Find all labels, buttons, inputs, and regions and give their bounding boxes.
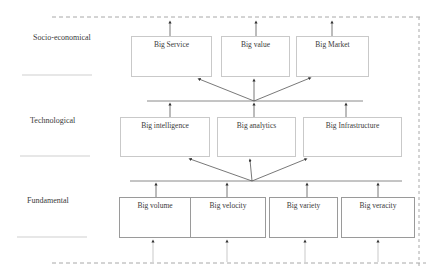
- box-title: Big volume: [120, 201, 190, 210]
- box-title: Big Infrastructure: [304, 121, 401, 130]
- box-title: Big analytics: [218, 121, 295, 130]
- box-title: Big intelligence: [121, 121, 209, 130]
- box-big-volume: Big volume: [119, 197, 191, 238]
- box-title: Big Service: [132, 40, 211, 49]
- box-title: Big velocity: [191, 201, 265, 210]
- box-title: Big value: [222, 40, 289, 49]
- box-big-intelligence: Big intelligence: [120, 117, 210, 157]
- layer-label-socio-economical: Socio-economical: [33, 33, 91, 42]
- box-big-variety: Big variety: [269, 197, 338, 238]
- box-big-service: Big Service: [131, 36, 212, 77]
- layer-label-fundamental: Fundamental: [27, 196, 69, 205]
- box-big-veracity: Big veracity: [341, 197, 415, 238]
- layer-label-technological: Technological: [30, 116, 75, 125]
- box-title: Big variety: [270, 201, 337, 210]
- box-title: Big Market: [297, 40, 368, 49]
- box-title: Big veracity: [342, 201, 414, 210]
- box-big-market: Big Market: [296, 36, 369, 77]
- box-big-infrastructure: Big Infrastructure: [303, 117, 402, 157]
- box-big-analytics: Big analytics: [217, 117, 296, 157]
- box-big-value: Big value: [221, 36, 290, 77]
- box-big-velocity: Big velocity: [190, 197, 266, 238]
